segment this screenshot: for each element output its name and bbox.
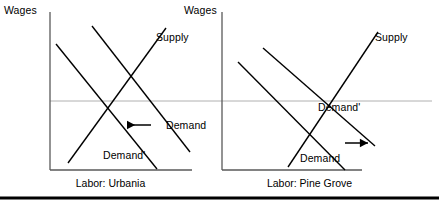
- supply-demand-figure: Wages Supply Demand Demand' Labor: Urban…: [0, 0, 439, 208]
- supply-label-urbania: Supply: [156, 31, 189, 43]
- panel-pine-grove: [222, 12, 378, 170]
- supply-curve-pine-grove: [288, 32, 378, 167]
- demand-curve-urbania: [92, 26, 190, 152]
- demand-label-urbania: Demand: [166, 119, 206, 131]
- demand-shifted-label-pine-grove: Demand': [318, 101, 360, 113]
- y-axis-label-pine-grove: Wages: [184, 4, 217, 16]
- supply-curve-urbania: [68, 28, 166, 163]
- caption-pine-grove: Labor: Pine Grove: [243, 177, 376, 189]
- supply-label-pine-grove: Supply: [375, 31, 408, 43]
- demand-label-pine-grove: Demand: [300, 152, 340, 164]
- y-axis-label-urbania: Wages: [4, 4, 37, 16]
- caption-urbania: Labor: Urbania: [48, 177, 173, 189]
- demand-shifted-label-urbania: Demand': [103, 149, 145, 161]
